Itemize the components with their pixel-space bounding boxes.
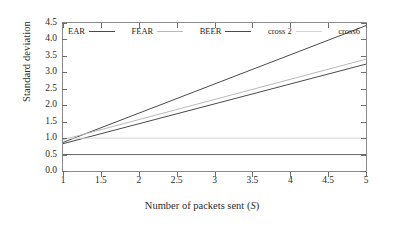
x-tick-label: 1	[48, 176, 78, 186]
y-tick-mark	[62, 138, 67, 139]
y-tick-label: 3.5	[33, 51, 57, 61]
series-line	[63, 26, 366, 143]
x-tick-mark	[63, 23, 64, 28]
legend-label: EAR	[68, 26, 89, 36]
x-tick-mark	[290, 172, 291, 177]
y-tick-mark	[361, 56, 366, 57]
legend-entry[interactable]: cross6	[338, 26, 364, 36]
legend-label: cross6	[338, 26, 364, 36]
legend-swatch	[225, 31, 251, 32]
legend-swatch	[89, 31, 115, 32]
legend-swatch	[296, 31, 322, 32]
x-tick-mark	[328, 23, 329, 28]
y-tick-mark	[361, 155, 366, 156]
legend-label: cross 2	[268, 26, 296, 36]
y-tick-mark	[361, 122, 366, 123]
y-tick-label: 0.5	[33, 150, 57, 160]
y-tick-mark	[62, 89, 67, 90]
y-tick-label: 3.0	[33, 67, 57, 77]
x-tick-label: 4	[275, 176, 305, 186]
y-tick-label: 2.0	[33, 100, 57, 110]
x-tick-mark	[177, 172, 178, 177]
y-tick-mark	[62, 56, 67, 57]
x-tick-label: 1.5	[86, 176, 116, 186]
chart-legend: EARFEARBEERcross 2cross6	[68, 24, 364, 38]
series-lines	[63, 23, 366, 171]
x-tick-mark	[139, 172, 140, 177]
y-tick-label: 2.5	[33, 84, 57, 94]
y-tick-mark	[361, 89, 366, 90]
y-tick-mark	[62, 105, 67, 106]
series-line	[63, 59, 366, 140]
legend-entry[interactable]: EAR	[68, 26, 125, 36]
legend-label: BEER	[200, 26, 226, 36]
x-tick-label: 2.5	[162, 176, 192, 186]
x-tick-mark	[328, 172, 329, 177]
x-tick-label: 3	[200, 176, 230, 186]
x-tick-mark	[215, 23, 216, 28]
y-tick-label: 4.0	[33, 34, 57, 44]
x-tick-mark	[139, 23, 140, 28]
y-tick-mark	[361, 105, 366, 106]
legend-label: FEAR	[131, 26, 157, 36]
y-tick-label: 1.0	[33, 133, 57, 143]
x-axis-symbol: S	[250, 200, 255, 211]
y-tick-mark	[62, 39, 67, 40]
x-tick-mark	[366, 23, 367, 28]
x-tick-mark	[177, 23, 178, 28]
chart-figure: Standard deviation EARFEARBEERcross 2cro…	[0, 0, 404, 230]
y-tick-mark	[361, 138, 366, 139]
legend-entry[interactable]: cross 2	[268, 26, 332, 36]
y-tick-label: 4.5	[33, 18, 57, 28]
y-tick-mark	[361, 39, 366, 40]
y-tick-mark	[62, 155, 67, 156]
y-tick-label: 0.0	[33, 166, 57, 176]
legend-swatch	[157, 31, 183, 32]
x-tick-mark	[101, 23, 102, 28]
x-tick-label: 2	[124, 176, 154, 186]
x-tick-mark	[63, 172, 64, 177]
x-tick-mark	[252, 172, 253, 177]
x-tick-mark	[101, 172, 102, 177]
y-tick-label: 1.5	[33, 117, 57, 127]
legend-entry[interactable]: FEAR	[131, 26, 193, 36]
x-tick-mark	[215, 172, 216, 177]
y-tick-mark	[361, 72, 366, 73]
x-tick-mark	[366, 172, 367, 177]
x-tick-mark	[252, 23, 253, 28]
y-axis-title: Standard deviation	[21, 0, 32, 132]
y-tick-mark	[62, 122, 67, 123]
plot-area	[62, 22, 367, 172]
x-tick-mark	[290, 23, 291, 28]
x-tick-label: 5	[351, 176, 381, 186]
x-tick-label: 3.5	[237, 176, 267, 186]
y-tick-mark	[62, 72, 67, 73]
series-line	[63, 64, 366, 144]
x-tick-label: 4.5	[313, 176, 343, 186]
x-axis-title: Number of packets sent (S)	[0, 200, 404, 211]
